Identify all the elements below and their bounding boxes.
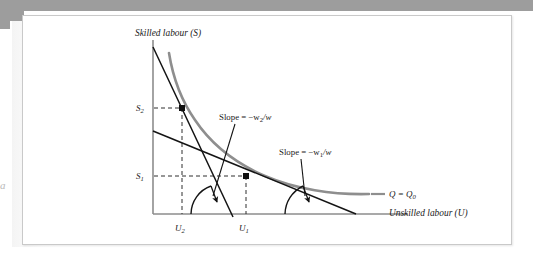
slope-w2-prefix: Slope = −w: [219, 112, 260, 122]
slope-w1-prefix: Slope = −w: [279, 147, 320, 157]
y-tick-s2-sub: 2: [141, 107, 145, 114]
y-tick-s1-sub: 1: [141, 175, 144, 182]
tangency-point-s2-u2: [179, 105, 185, 111]
angle-arc-w1: [285, 186, 303, 214]
figure-card: Skilled labour (S) Unskilled labour (U) …: [22, 15, 512, 245]
page-root: a: [0, 0, 533, 260]
x-tick-label-u1: U1: [239, 223, 249, 234]
isoquant-label-sub: 0: [413, 193, 417, 200]
slope-w2-suffix: /w: [262, 112, 271, 122]
guide-lines-group: [154, 108, 246, 214]
isoquant-label-prefix: Q = Q: [389, 189, 413, 199]
x-tick-label-u2: U2: [175, 223, 186, 234]
x-tick-u2-sub: 2: [182, 227, 186, 234]
tangency-point-s1-u1: [243, 173, 249, 179]
y-tick-label-s1: S1: [136, 171, 144, 182]
y-axis-label: Skilled labour (S): [135, 28, 201, 39]
x-axis-label: Unskilled labour (U): [389, 208, 468, 219]
y-tick-label-s2: S2: [136, 103, 145, 114]
angle-arc-w1-group: [285, 186, 309, 214]
angle-arc-w2: [191, 186, 211, 214]
page-bleed-left-bar: [0, 11, 10, 29]
slope-label-w2: Slope = −w2/w: [219, 112, 271, 123]
x-tick-u1-sub: 1: [246, 227, 249, 234]
slope-label-w1: Slope = −w1/w: [279, 147, 331, 158]
leader-line-slope-w1: [301, 159, 305, 196]
angle-arc-w2-group: [191, 186, 217, 214]
leader-line-slope-w2: [213, 124, 235, 196]
slope-w1-suffix: /w: [322, 147, 331, 157]
margin-text-fragment: a: [0, 178, 9, 192]
isoquant-label-text: Q = Q0: [389, 189, 417, 200]
budget-line-w2: [153, 47, 233, 217]
isoquant-diagram-svg: Skilled labour (S) Unskilled labour (U) …: [23, 16, 513, 246]
budget-line-w1: [153, 131, 356, 214]
isoquant-curve: [169, 53, 369, 194]
page-bleed-top-bar: [0, 0, 533, 11]
